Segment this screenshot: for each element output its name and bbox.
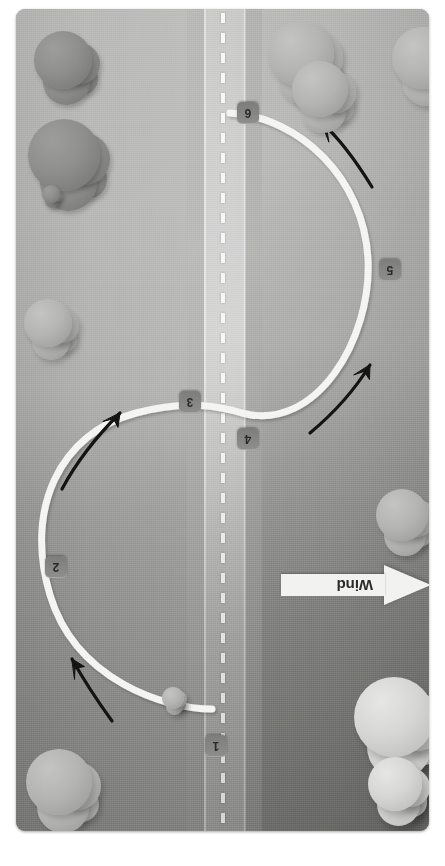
tree-canopy-lobe <box>368 757 422 811</box>
flight-track-path <box>42 113 369 709</box>
tree-canopy-lobe <box>28 119 100 191</box>
tree-canopy-lobe <box>162 687 184 709</box>
waypoint-1: 1 <box>205 735 227 757</box>
wind-indicator: Wind <box>281 565 429 605</box>
tree-10 <box>368 757 422 811</box>
direction-arrow-3 <box>310 365 370 433</box>
tree-1 <box>34 31 92 89</box>
tree-6 <box>292 61 348 117</box>
tree-12 <box>162 687 184 709</box>
tree-canopy-lobe <box>34 31 92 89</box>
diagram-page: 123456 Wind <box>0 0 445 866</box>
waypoint-2: 2 <box>45 556 67 578</box>
tree-9 <box>354 677 429 757</box>
waypoint-6: 6 <box>237 102 259 124</box>
tree-2 <box>28 119 100 191</box>
direction-arrow-4 <box>322 123 372 187</box>
tree-canopy-lobe <box>26 749 92 815</box>
wind-label: Wind <box>283 574 373 596</box>
tree-canopy-lobe <box>376 489 428 541</box>
tree-8 <box>376 489 428 541</box>
tree-canopy-lobe <box>42 185 60 203</box>
direction-arrow-1 <box>72 659 112 721</box>
waypoint-5: 5 <box>379 259 401 281</box>
tree-3 <box>42 185 60 203</box>
waypoint-3: 3 <box>179 391 201 413</box>
tree-canopy-lobe <box>354 677 429 757</box>
wind-arrow-icon <box>384 565 429 605</box>
waypoint-4: 4 <box>237 428 259 450</box>
tree-canopy-lobe <box>24 299 72 347</box>
tree-4 <box>24 299 72 347</box>
aerial-diagram-image: 123456 Wind <box>16 9 429 831</box>
tree-canopy-lobe <box>292 61 348 117</box>
tree-11 <box>26 749 92 815</box>
